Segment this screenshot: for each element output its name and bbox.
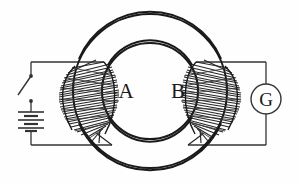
secondary-winding-B [181,60,241,145]
faraday-ring-diagram: G A B [0,0,298,184]
galvanometer[interactable]: G [251,84,281,114]
diagram-canvas: G A B [0,0,298,184]
galvanometer-label: G [259,89,273,110]
core-label-b: B [171,79,185,103]
switch-blade[interactable] [18,76,31,95]
ring-outer-arc-top [79,12,221,59]
core-label-a: A [118,79,134,103]
battery-cells [18,112,44,131]
ring-core-overlay [79,12,221,170]
open-switch[interactable] [18,74,33,103]
primary-winding-A [59,60,119,145]
switch-lower-contact [29,99,33,103]
